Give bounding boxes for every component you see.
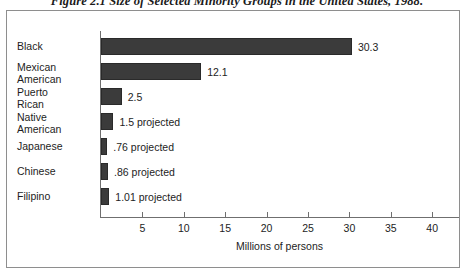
x-axis-tick: [349, 212, 350, 218]
bar-value-label: 2.5: [128, 91, 143, 103]
bar-row: Mexican American12.1: [7, 62, 461, 87]
bar-value-label: 12.1: [207, 66, 227, 78]
category-label: Puerto Rican: [17, 87, 97, 110]
x-axis-tick: [308, 212, 309, 218]
bar: [101, 113, 113, 130]
x-axis-tick-label: 35: [376, 222, 406, 234]
x-axis-tick-label: 5: [127, 222, 157, 234]
x-axis-tick: [184, 212, 185, 218]
bar: [101, 163, 108, 180]
bar-row: Black30.3: [7, 37, 461, 62]
bar: [101, 88, 122, 105]
x-axis-tick-label: 40: [417, 222, 447, 234]
x-axis-tick: [142, 212, 143, 218]
category-label: Black: [17, 41, 97, 53]
x-axis-tick-label: 15: [210, 222, 240, 234]
bar: [101, 188, 109, 205]
x-axis-tick-label: 30: [334, 222, 364, 234]
figure-caption: Figure 2.1 Size of Selected Minority Gro…: [0, 0, 474, 9]
chart-frame: Black30.3Mexican American12.1Puerto Rica…: [6, 10, 460, 268]
category-label: Filipino: [17, 191, 97, 203]
x-axis-tick: [267, 212, 268, 218]
plot-area: Black30.3Mexican American12.1Puerto Rica…: [7, 11, 461, 269]
bar: [101, 63, 201, 80]
bar-value-label: .76 projected: [113, 141, 174, 153]
bar-row: Filipino1.01 projected: [7, 187, 461, 212]
bar-value-label: 1.5 projected: [119, 116, 180, 128]
category-label: Native American: [17, 112, 97, 135]
x-axis-tick-label: 10: [169, 222, 199, 234]
category-label: Chinese: [17, 166, 97, 178]
bar-row: Puerto Rican2.5: [7, 87, 461, 112]
bar-value-label: 30.3: [358, 41, 378, 53]
bar-row: Japanese.76 projected: [7, 137, 461, 162]
x-axis-tick: [225, 212, 226, 218]
x-axis-tick-label: 25: [293, 222, 323, 234]
bar-value-label: .86 projected: [114, 166, 175, 178]
x-axis-line: [100, 217, 459, 218]
bar: [101, 138, 107, 155]
x-axis-title: Millions of persons: [100, 240, 459, 252]
x-axis-tick: [391, 212, 392, 218]
bar-row: Native American1.5 projected: [7, 112, 461, 137]
bar-value-label: 1.01 projected: [115, 191, 182, 203]
x-axis-tick: [432, 212, 433, 218]
category-label: Mexican American: [17, 62, 97, 85]
bar-row: Chinese.86 projected: [7, 162, 461, 187]
x-axis-tick-label: 20: [252, 222, 282, 234]
bar: [101, 38, 352, 55]
category-label: Japanese: [17, 141, 97, 153]
